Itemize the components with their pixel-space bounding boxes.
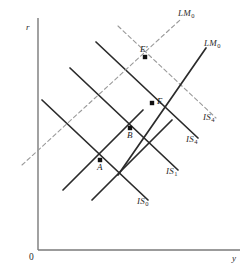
curve-label-LM0-dashed: LM0 <box>178 8 194 18</box>
curve-label-text-IS4-dashed: IS <box>203 112 211 122</box>
curve-label-LM0-solid: LM0 <box>204 38 220 48</box>
curve-label-text-IS4: IS <box>186 134 194 144</box>
origin-label: 0 <box>29 252 34 262</box>
curve-label-subscript-LM0-dashed: 0 <box>191 12 194 19</box>
curve-LM-lower <box>63 110 143 190</box>
x-axis-label: y <box>232 253 236 263</box>
curve-label-text-IS1: IS <box>166 166 174 176</box>
curves-group <box>22 20 216 200</box>
curve-label-subscript-IS1: 1 <box>174 170 177 177</box>
curve-label-subscript-IS4: 4 <box>194 138 197 145</box>
curve-label-text-LM0-dashed: LM <box>178 8 191 18</box>
curve-label-IS4-dashed: IS4 <box>203 112 214 122</box>
curve-label-subscript-IS4-dashed: 4 <box>211 116 214 123</box>
curve-IS1 <box>70 68 178 170</box>
data-point-Eprime <box>143 55 147 59</box>
curve-label-IS1: IS1 <box>166 166 177 176</box>
curve-label-subscript-LM0-solid: 0 <box>217 42 220 49</box>
point-label-Eprime: E′ <box>140 44 147 54</box>
is-lm-chart: r y 0 IS0IS1IS4IS4LM0LM0 ABEE′ <box>0 0 250 280</box>
curve-label-subscript-IS0: 0 <box>145 200 148 207</box>
curve-label-text-LM0-solid: LM <box>204 38 217 48</box>
point-label-A: A <box>97 162 103 172</box>
curve-label-text-IS0: IS <box>137 196 145 206</box>
y-axis-label: r <box>26 22 30 32</box>
point-label-B: B <box>127 130 133 140</box>
curve-LM0-dashed <box>22 20 180 165</box>
data-point-E <box>150 101 154 105</box>
curve-label-IS4: IS4 <box>186 134 197 144</box>
point-label-E: E <box>157 96 163 106</box>
curve-IS0 <box>42 100 148 200</box>
curve-label-IS0: IS0 <box>137 196 148 206</box>
